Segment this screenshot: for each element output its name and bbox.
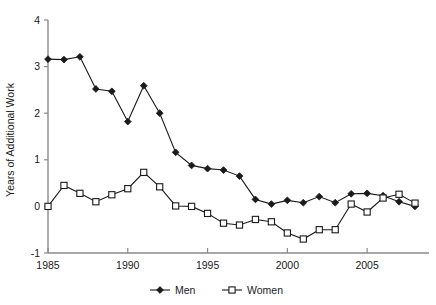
data-point-women-1986 <box>61 182 67 188</box>
y-axis-tick-label: 2 <box>34 107 40 119</box>
data-point-women-1998 <box>252 216 258 222</box>
data-point-women-2002 <box>316 227 322 233</box>
y-axis: -101234 <box>31 14 48 259</box>
data-point-men-2002 <box>316 193 323 200</box>
x-axis-tick-label: 1995 <box>196 259 220 271</box>
data-point-women-1990 <box>125 186 131 192</box>
data-point-women-1985 <box>45 203 51 209</box>
legend-label-men: Men <box>175 284 196 296</box>
data-point-men-2005 <box>364 190 371 197</box>
data-point-women-2007 <box>396 191 402 197</box>
data-point-women-1994 <box>189 203 195 209</box>
data-point-men-1992 <box>156 110 163 117</box>
legend-marker-women <box>229 287 235 293</box>
data-point-men-2007 <box>396 198 403 205</box>
data-point-women-2006 <box>380 195 386 201</box>
legend-label-women: Women <box>247 284 283 296</box>
series-women <box>45 169 418 242</box>
chart-figure: -101234 19851990199520002005 MenWomen Ye… <box>0 0 436 305</box>
data-point-men-1987 <box>77 53 84 60</box>
data-point-men-2001 <box>300 199 307 206</box>
y-axis-tick-label: 0 <box>34 200 40 212</box>
data-point-women-1997 <box>236 222 242 228</box>
y-axis-tick-label: 1 <box>34 153 40 165</box>
data-point-men-2004 <box>348 190 355 197</box>
y-axis-tick-label: 4 <box>34 14 40 26</box>
data-point-women-1988 <box>93 199 99 205</box>
data-point-men-1998 <box>252 196 259 203</box>
x-axis-tick-label: 1990 <box>116 259 140 271</box>
data-point-women-2000 <box>284 230 290 236</box>
data-point-women-2003 <box>332 227 338 233</box>
data-point-men-2000 <box>284 197 291 204</box>
legend-marker-men <box>157 287 164 294</box>
legend-entry-men: Men <box>150 284 196 296</box>
y-axis-title: Years of Additional Work <box>4 82 16 197</box>
data-point-women-1995 <box>204 210 210 216</box>
line-chart-canvas: -101234 19851990199520002005 MenWomen Ye… <box>0 0 436 305</box>
data-point-women-2001 <box>300 236 306 242</box>
x-axis-tick-label: 1985 <box>36 259 60 271</box>
data-point-women-1989 <box>109 192 115 198</box>
data-point-men-1988 <box>92 86 99 93</box>
data-point-women-1999 <box>268 219 274 225</box>
data-point-men-1997 <box>236 173 243 180</box>
data-point-women-1992 <box>157 184 163 190</box>
data-point-women-1993 <box>173 203 179 209</box>
y-axis-tick-label: 3 <box>34 60 40 72</box>
data-point-women-2008 <box>412 200 418 206</box>
data-point-men-1991 <box>140 82 147 89</box>
x-axis-tick-label: 2005 <box>355 259 379 271</box>
x-axis-tick-label: 2000 <box>276 259 300 271</box>
data-point-men-1989 <box>108 88 115 95</box>
x-axis: 19851990199520002005 <box>36 248 429 271</box>
data-point-men-1999 <box>268 201 275 208</box>
data-point-men-1990 <box>124 118 131 125</box>
data-point-men-1986 <box>61 56 68 63</box>
y-axis-tick-label: -1 <box>31 247 40 259</box>
series-line-men <box>48 57 415 207</box>
legend-entry-women: Women <box>222 284 283 296</box>
data-point-women-1991 <box>141 169 147 175</box>
data-point-men-1995 <box>204 165 211 172</box>
data-point-women-1987 <box>77 190 83 196</box>
series-line-women <box>48 172 415 239</box>
data-point-women-2005 <box>364 209 370 215</box>
series-men <box>45 53 419 209</box>
data-point-men-1996 <box>220 167 227 174</box>
chart-legend: MenWomen <box>150 284 283 296</box>
data-point-men-2003 <box>332 199 339 206</box>
data-point-men-1985 <box>45 56 52 63</box>
data-point-women-2004 <box>348 201 354 207</box>
data-series-group <box>45 53 419 242</box>
data-point-women-1996 <box>220 220 226 226</box>
